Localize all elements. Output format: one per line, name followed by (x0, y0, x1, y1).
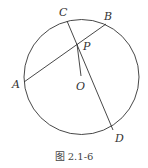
chord-ab (24, 24, 106, 82)
label-p: P (82, 40, 91, 53)
figure-caption: 图 2.1-6 (55, 151, 94, 162)
label-a: A (11, 78, 20, 91)
geometry-figure: A B C D P O 图 2.1-6 (0, 0, 148, 168)
label-c: C (59, 6, 68, 19)
chord-cd (67, 21, 113, 130)
circle-o (24, 20, 139, 135)
label-o: O (76, 80, 85, 93)
label-b: B (103, 10, 112, 23)
label-d: D (114, 132, 124, 145)
